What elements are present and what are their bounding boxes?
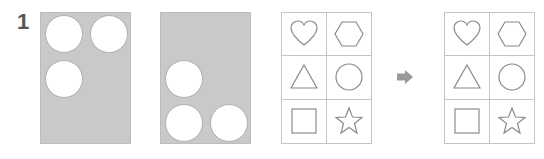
hole-middle-left — [165, 60, 203, 98]
hexagon-icon — [334, 19, 364, 49]
arrow-right-icon — [397, 70, 413, 84]
puzzle-number: 1 — [17, 9, 29, 35]
grid-cell-triangle — [445, 56, 490, 99]
grid-cell-star — [490, 100, 535, 143]
punched-panel-a — [40, 12, 131, 144]
square-icon — [289, 106, 319, 136]
shape-grid-question — [281, 12, 372, 144]
triangle-icon — [289, 62, 319, 92]
star-icon — [497, 106, 527, 136]
punched-panel-b — [160, 12, 251, 144]
grid-cell-triangle — [282, 56, 327, 99]
grid-cell-star — [327, 100, 372, 143]
hole-top-right — [90, 15, 128, 53]
grid-cell-square — [445, 100, 490, 143]
grid-cell-heart — [282, 13, 327, 56]
star-icon — [334, 106, 364, 136]
square-icon — [452, 106, 482, 136]
circle-icon — [334, 62, 364, 92]
circle-icon — [497, 62, 527, 92]
grid-cell-circle — [327, 56, 372, 99]
hole-middle-left — [45, 60, 83, 98]
grid-cell-heart — [445, 13, 490, 56]
hexagon-icon — [497, 19, 527, 49]
grid-cell-hexagon — [490, 13, 535, 56]
grid-cell-square — [282, 100, 327, 143]
hole-bottom-left — [165, 104, 203, 142]
heart-icon — [452, 19, 482, 49]
triangle-icon — [452, 62, 482, 92]
heart-icon — [289, 19, 319, 49]
grid-cell-hexagon — [327, 13, 372, 56]
hole-top-left — [45, 15, 83, 53]
hole-bottom-right — [210, 104, 248, 142]
shape-grid-answer — [444, 12, 535, 144]
grid-cell-circle — [490, 56, 535, 99]
